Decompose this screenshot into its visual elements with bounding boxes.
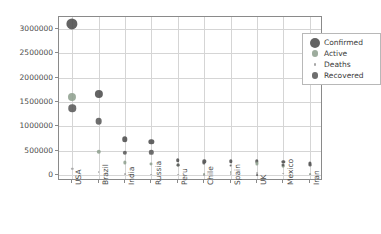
marker-confirmed-peru — [176, 158, 180, 162]
ytick-label-2: 1000000 — [20, 121, 53, 130]
legend-label-confirmed: Confirmed — [324, 38, 363, 47]
marker-recovered-iran — [308, 164, 311, 167]
chart-legend: ConfirmedActiveDeathsRecovered — [302, 33, 381, 85]
ytick-mark-1 — [55, 150, 58, 151]
ytick-mark-3 — [55, 101, 58, 102]
marker-deaths-spain — [230, 173, 232, 175]
gridline-x-spain — [231, 17, 232, 179]
legend-marker-recovered-icon — [312, 72, 319, 79]
xtick-label-peru: Peru — [180, 168, 189, 185]
legend-swatch-cell — [306, 38, 324, 48]
marker-deaths-peru — [177, 174, 179, 176]
marker-deaths-mexico — [282, 173, 284, 175]
xtick-label-iran: Iran — [312, 170, 321, 185]
xtick-mark-usa — [71, 180, 72, 183]
xtick-label-chile: Chile — [206, 166, 215, 185]
ytick-mark-6 — [55, 28, 58, 29]
marker-recovered-chile — [203, 161, 206, 164]
legend-item-recovered[interactable]: Recovered — [306, 70, 376, 81]
marker-recovered-mexico — [282, 163, 285, 166]
marker-active-india — [123, 161, 126, 164]
legend-marker-deaths-icon — [314, 63, 316, 65]
gridline-x-brazil — [99, 17, 100, 179]
marker-deaths-russia — [150, 174, 152, 176]
xtick-mark-iran — [309, 180, 310, 183]
marker-recovered-brazil — [95, 118, 102, 125]
legend-label-deaths: Deaths — [324, 60, 351, 69]
marker-recovered-uk — [256, 174, 258, 176]
marker-recovered-spain — [229, 164, 232, 167]
xtick-mark-peru — [177, 180, 178, 183]
xtick-label-usa: USA — [74, 169, 83, 185]
marker-confirmed-russia — [149, 139, 154, 144]
marker-deaths-india — [124, 173, 126, 175]
xtick-label-mexico: Mexico — [286, 159, 295, 185]
marker-confirmed-brazil — [94, 90, 102, 98]
plot-area: ConfirmedActiveDeathsRecovered — [58, 16, 322, 180]
legend-marker-confirmed-icon — [310, 38, 320, 48]
marker-recovered-india — [123, 151, 127, 155]
xtick-label-india: India — [127, 167, 136, 185]
marker-deaths-brazil — [98, 171, 100, 173]
ytick-mark-2 — [55, 125, 58, 126]
xtick-mark-mexico — [282, 180, 283, 183]
ytick-label-4: 2000000 — [20, 72, 53, 81]
marker-recovered-peru — [176, 164, 179, 167]
marker-recovered-usa — [68, 105, 75, 112]
marker-confirmed-india — [122, 136, 127, 141]
ytick-mark-4 — [55, 77, 58, 78]
marker-recovered-russia — [149, 150, 153, 154]
ytick-label-0: 0 — [48, 170, 53, 179]
legend-swatch-cell — [306, 50, 324, 57]
legend-swatch-cell — [306, 72, 324, 79]
gridline-x-chile — [204, 17, 205, 179]
gridline-x-russia — [151, 17, 152, 179]
legend-label-recovered: Recovered — [324, 71, 364, 80]
xtick-mark-brazil — [98, 180, 99, 183]
marker-active-uk — [255, 162, 258, 165]
legend-item-confirmed[interactable]: Confirmed — [306, 37, 376, 48]
gridline-x-mexico — [283, 17, 284, 179]
xtick-mark-chile — [203, 180, 204, 183]
legend-item-deaths[interactable]: Deaths — [306, 59, 376, 70]
xtick-mark-uk — [256, 180, 257, 183]
marker-active-brazil — [96, 150, 100, 154]
marker-deaths-chile — [203, 174, 205, 176]
ytick-label-1: 500000 — [24, 145, 53, 154]
legend-label-active: Active — [324, 49, 347, 58]
xtick-label-spain: Spain — [233, 164, 242, 185]
xtick-label-brazil: Brazil — [101, 164, 110, 185]
marker-deaths-iran — [309, 174, 311, 176]
ytick-label-5: 2500000 — [20, 48, 53, 57]
legend-item-active[interactable]: Active — [306, 48, 376, 59]
ytick-label-6: 3000000 — [20, 24, 53, 33]
xtick-label-uk: UK — [259, 175, 268, 185]
ytick-label-3: 1500000 — [20, 97, 53, 106]
marker-confirmed-spain — [229, 160, 232, 163]
xtick-label-russia: Russia — [154, 161, 163, 185]
marker-active-usa — [68, 93, 76, 101]
legend-swatch-cell — [306, 63, 324, 65]
marker-active-russia — [150, 163, 153, 166]
xtick-mark-india — [124, 180, 125, 183]
ytick-mark-5 — [55, 52, 58, 53]
xtick-mark-spain — [230, 180, 231, 183]
xtick-mark-russia — [150, 180, 151, 183]
gridline-x-peru — [178, 17, 179, 179]
legend-marker-active-icon — [312, 50, 319, 57]
ytick-mark-0 — [55, 174, 58, 175]
gridline-x-uk — [257, 17, 258, 179]
